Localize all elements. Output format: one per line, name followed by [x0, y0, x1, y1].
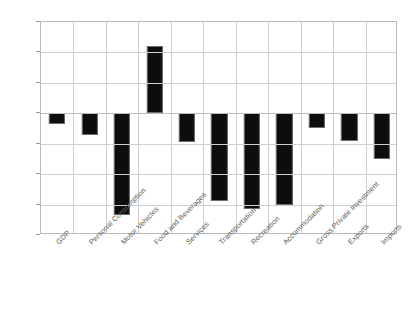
x-axis-labels: GDPPersonal ConsumptionMotor VehiclesFoo… — [40, 237, 397, 318]
x-gridline — [171, 22, 172, 233]
y-gridline — [41, 205, 396, 206]
bar-slot — [301, 22, 333, 233]
x-gridline — [203, 22, 204, 233]
bar — [49, 113, 65, 124]
x-gridline — [301, 22, 302, 233]
x-gridline — [366, 22, 367, 233]
bar-slot — [73, 22, 105, 233]
x-gridline — [106, 22, 107, 233]
bar-slot — [203, 22, 235, 233]
bar-slot — [236, 22, 268, 233]
bar — [309, 113, 325, 128]
y-gridline — [41, 113, 396, 114]
y-axis-tick-mark — [36, 234, 40, 235]
y-axis-tick-mark — [36, 204, 40, 205]
bar-chart: GDPPersonal ConsumptionMotor VehiclesFoo… — [0, 0, 417, 318]
x-gridline — [138, 22, 139, 233]
bar — [211, 113, 227, 200]
bar — [146, 46, 162, 113]
y-axis-tick-mark — [36, 21, 40, 22]
bar-slot — [366, 22, 398, 233]
y-axis-tick-mark — [36, 143, 40, 144]
x-gridline — [268, 22, 269, 233]
x-gridline — [73, 22, 74, 233]
bar — [82, 113, 98, 134]
x-gridline — [236, 22, 237, 233]
plot-area — [40, 21, 397, 234]
bar-slot — [138, 22, 170, 233]
y-gridline — [41, 174, 396, 175]
y-gridline — [41, 83, 396, 84]
bar — [244, 113, 260, 209]
y-axis-tick-mark — [36, 82, 40, 83]
bar — [374, 113, 390, 159]
y-axis-tick-mark — [36, 51, 40, 52]
bar-series — [41, 22, 396, 233]
y-axis-tick-mark — [36, 112, 40, 113]
bar-slot — [268, 22, 300, 233]
y-axis-tick-mark — [36, 173, 40, 174]
y-gridline — [41, 52, 396, 53]
y-gridline — [41, 144, 396, 145]
bar-slot — [41, 22, 73, 233]
x-gridline — [333, 22, 334, 233]
bar — [341, 113, 357, 140]
bar — [179, 113, 195, 142]
bar — [276, 113, 292, 204]
